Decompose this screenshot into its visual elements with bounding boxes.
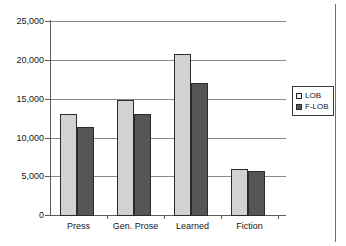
y-axis-label-15000: 15,000 — [16, 95, 44, 104]
bar-lob-gen-prose — [117, 100, 134, 216]
x-axis-label-fiction: Fiction — [221, 221, 278, 232]
bar-flob-press — [77, 127, 94, 216]
x-axis-separator-4 — [278, 215, 279, 219]
bar-flob-gen-prose — [134, 114, 151, 216]
bar-lob-fiction — [231, 169, 248, 216]
bar-flob-fiction — [248, 171, 265, 216]
x-axis-label-gen-prose: Gen. Prose — [107, 221, 164, 232]
x-axis-label-press: Press — [50, 221, 107, 232]
gridline-15000 — [50, 99, 286, 100]
bar-lob-learned — [174, 54, 191, 216]
x-axis-separator-1 — [107, 215, 108, 219]
bar-chart-figure: 25,000 20,000 15,000 10,000 5,000 0 Pres… — [0, 0, 346, 246]
legend-item-flob: F-LOB — [296, 101, 329, 112]
legend-item-lob: LOB — [296, 90, 329, 101]
legend-swatch-icon-lob — [296, 93, 302, 99]
y-axis-line — [50, 20, 51, 216]
gridline-25000 — [50, 21, 286, 22]
y-axis-label-20000: 20,000 — [16, 56, 44, 65]
x-axis-separator-2 — [164, 215, 165, 219]
legend-swatch-icon-flob — [296, 104, 302, 110]
chart-legend: LOB F-LOB — [292, 86, 334, 116]
legend-label-lob: LOB — [305, 91, 321, 100]
x-axis-separator-3 — [221, 215, 222, 219]
page-divider-rule — [335, 4, 336, 242]
y-axis-label-5000: 5,000 — [21, 172, 44, 181]
y-axis-label-25000: 25,000 — [16, 17, 44, 26]
y-axis-label-10000: 10,000 — [16, 134, 44, 143]
gridline-20000 — [50, 60, 286, 61]
y-axis-label-0: 0 — [39, 211, 44, 220]
x-axis-label-learned: Learned — [164, 221, 221, 232]
legend-label-flob: F-LOB — [305, 102, 329, 111]
bar-lob-press — [60, 114, 77, 216]
bar-flob-learned — [191, 83, 208, 216]
